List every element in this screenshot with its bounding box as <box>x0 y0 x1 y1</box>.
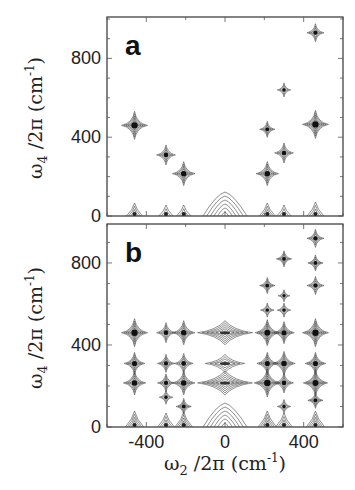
contour-peak <box>173 371 195 395</box>
xtick-label: -400 <box>128 432 164 452</box>
contour-peak <box>302 110 328 138</box>
peak-core <box>164 330 169 335</box>
peak-core <box>265 423 269 427</box>
peak-core <box>133 423 137 427</box>
peak-core <box>265 212 269 216</box>
peak-core <box>282 381 287 386</box>
peak-core <box>132 361 137 366</box>
peak-core <box>282 257 286 261</box>
contour-peak <box>158 374 175 392</box>
contour-peak <box>307 277 324 295</box>
peak-core <box>264 330 270 336</box>
panel-a-ticks <box>107 17 343 216</box>
peak-core <box>164 361 168 365</box>
peak-core <box>265 171 271 177</box>
peak-core <box>282 423 286 427</box>
panel-a-letter: a <box>125 30 141 61</box>
contour-peak <box>260 121 275 137</box>
contour-peak <box>258 411 276 427</box>
ytick-label: 800 <box>71 48 101 68</box>
contour-peak <box>174 353 193 373</box>
ytick-label: 0 <box>91 417 101 437</box>
contour-peak <box>308 392 323 408</box>
panel-b-ylabel: ω4 /2π (cm-1) <box>23 267 50 389</box>
panel-a-frame <box>107 17 343 216</box>
ytick-label: 400 <box>71 127 101 147</box>
peak-core <box>282 308 285 311</box>
peak-core <box>282 88 285 91</box>
peak-core <box>164 381 168 385</box>
peak-core <box>313 423 317 427</box>
panel-a-ylabel: ω4 /2π (cm-1) <box>23 57 50 179</box>
peak-core <box>283 294 286 297</box>
contour-peak <box>308 255 323 271</box>
panel-b-frame <box>107 224 343 427</box>
panel-b: b 0400800 -4000400 ω4 /2π (cm-1) <box>23 224 343 452</box>
peak-core <box>182 405 186 409</box>
contour-peak <box>257 352 278 374</box>
contour-peak <box>158 413 175 427</box>
panel-b-letter: b <box>125 237 142 268</box>
panel-b-ytick-labels: 0400800 <box>71 253 101 437</box>
peak-core <box>181 330 187 336</box>
peak-core <box>220 362 230 365</box>
contour-peak <box>259 203 275 216</box>
xtick-label: 0 <box>220 432 230 452</box>
peak-core <box>282 151 287 156</box>
peak-core <box>313 361 318 366</box>
panel-a: a 0400800 ω4 /2π (cm-1) <box>23 17 343 226</box>
contour-peak <box>177 205 191 216</box>
peak-core <box>164 212 168 216</box>
contour-peak <box>307 24 324 42</box>
contour-peak <box>307 202 324 216</box>
peak-core <box>164 153 169 158</box>
contour-peak <box>277 205 291 216</box>
panel-b-peaks <box>122 229 329 427</box>
contour-peak <box>275 143 294 163</box>
peak-core <box>314 398 318 402</box>
peak-core <box>182 212 186 216</box>
peak-core <box>131 122 137 128</box>
ytick-label: 800 <box>71 253 101 273</box>
contour-peak <box>123 371 145 395</box>
contour-peak <box>198 371 253 395</box>
contour-peak <box>173 162 195 186</box>
peak-core <box>266 308 269 311</box>
contour-peak <box>302 319 328 347</box>
ytick-label: 400 <box>71 335 101 355</box>
peak-core <box>220 331 230 334</box>
peak-core <box>313 212 317 216</box>
panel-b-ticks <box>107 224 343 427</box>
contour-peak <box>260 278 275 294</box>
contour-peak <box>122 111 148 139</box>
x-axis-title: ω2 /2π (cm-1) <box>164 451 286 478</box>
peak-core <box>164 396 167 399</box>
contour-peak <box>277 83 290 97</box>
peak-core <box>312 329 318 335</box>
contour-peak <box>127 203 143 216</box>
contour-peak <box>159 205 173 216</box>
peak-core <box>164 423 168 427</box>
peak-core <box>282 212 286 216</box>
peak-core <box>182 423 186 427</box>
contour-peak <box>273 351 295 375</box>
peak-core <box>133 212 137 216</box>
contour-peak <box>173 321 195 345</box>
peak-core <box>220 381 230 384</box>
peak-core <box>281 330 286 335</box>
contour-peak <box>205 354 244 372</box>
peak-core <box>313 283 317 287</box>
contour-peak <box>277 303 290 317</box>
contour-peak <box>276 413 293 427</box>
contour-peak <box>125 411 143 427</box>
peak-core <box>281 361 287 367</box>
panel-a-ytick-labels: 0400800 <box>71 48 101 226</box>
contour-peak <box>256 162 278 186</box>
contour-peak <box>159 390 172 404</box>
peak-core <box>312 380 318 386</box>
contour-peak <box>277 399 290 413</box>
contour-peak <box>278 290 290 302</box>
peak-core <box>181 380 187 386</box>
contour-peak <box>275 373 294 393</box>
peak-core <box>265 361 270 366</box>
